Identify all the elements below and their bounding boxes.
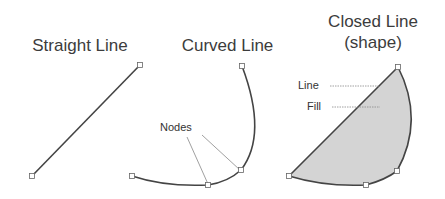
curved-line-shape xyxy=(130,64,255,188)
line-callout: Line xyxy=(298,79,319,91)
diagram-canvas xyxy=(0,0,445,199)
fill-callout: Fill xyxy=(307,100,321,112)
nodes-callout: Nodes xyxy=(160,121,192,133)
straight-line-shape xyxy=(30,63,143,179)
